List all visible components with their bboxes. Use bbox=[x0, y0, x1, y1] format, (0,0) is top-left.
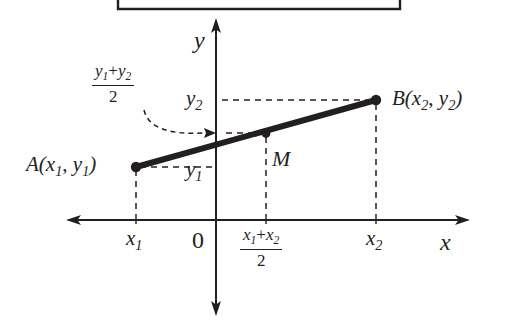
midpoint-x-num-a: x bbox=[243, 225, 251, 244]
midpoint-y-fraction-bar bbox=[92, 85, 134, 86]
callout-arrow bbox=[144, 110, 216, 138]
x1-tick-label-sub: 1 bbox=[135, 237, 142, 253]
midpoint-x-denominator: 2 bbox=[240, 251, 282, 270]
point-m bbox=[262, 129, 271, 138]
segment-ab bbox=[136, 100, 376, 167]
midpoint-x-num-plus: + bbox=[256, 225, 266, 244]
x2-tick-label-sub: 2 bbox=[375, 237, 382, 253]
point-b-label-head: B( bbox=[392, 86, 412, 110]
point-a-label-x: x bbox=[46, 152, 55, 176]
y2-tick-label-base: y bbox=[186, 86, 195, 110]
midpoint-y-numerator: y1+y2 bbox=[92, 62, 134, 84]
x2-tick-label-base: x bbox=[366, 226, 375, 250]
point-b-label: B(x2, y2) bbox=[392, 88, 462, 112]
point-a bbox=[131, 162, 141, 172]
midpoint-y-expression: y1+y2 2 bbox=[92, 62, 134, 106]
y2-tick-label: y2 bbox=[186, 88, 202, 112]
midpoint-x-fraction-bar bbox=[240, 249, 282, 250]
point-a-label-close: ) bbox=[89, 152, 96, 176]
x2-tick-label: x2 bbox=[366, 228, 382, 252]
midpoint-x-numerator: x1+x2 bbox=[240, 226, 282, 248]
y1-tick-label-base: y bbox=[186, 157, 195, 181]
cropped-frame-box bbox=[118, 0, 400, 9]
y1-tick-label-sub: 1 bbox=[195, 168, 202, 184]
midpoint-x-num-b-sub: 2 bbox=[273, 234, 279, 247]
point-a-label-comma: , bbox=[62, 152, 73, 176]
point-b bbox=[371, 95, 381, 105]
x1-tick-label: x1 bbox=[126, 228, 142, 252]
point-b-label-x: x bbox=[412, 86, 421, 110]
midpoint-y-denominator: 2 bbox=[92, 87, 134, 106]
point-a-label-head: A( bbox=[26, 152, 46, 176]
y1-tick-label: y1 bbox=[186, 159, 202, 183]
x-axis bbox=[66, 215, 470, 225]
x-axis-label: x bbox=[440, 230, 451, 254]
point-a-label: A(x1, y1) bbox=[26, 154, 96, 178]
point-m-label: M bbox=[272, 148, 290, 170]
midpoint-y-num-b-sub: 2 bbox=[125, 70, 131, 83]
midpoint-y-num-plus: + bbox=[108, 61, 118, 80]
point-a-label-y: y bbox=[73, 152, 82, 176]
point-b-label-y: y bbox=[439, 86, 448, 110]
midpoint-x-expression: x1+x2 2 bbox=[240, 226, 282, 270]
y-axis bbox=[211, 18, 221, 316]
point-b-label-comma: , bbox=[428, 86, 439, 110]
midpoint-y-num-a: y bbox=[95, 61, 103, 80]
origin-label: 0 bbox=[192, 228, 204, 252]
figure-canvas: y x 0 A(x1, y1) B(x2, y2) M y2 y1 x1 x2 … bbox=[0, 0, 521, 322]
x1-tick-label-base: x bbox=[126, 226, 135, 250]
y-axis-label: y bbox=[194, 28, 205, 52]
y2-tick-label-sub: 2 bbox=[195, 97, 202, 113]
point-b-label-close: ) bbox=[455, 86, 462, 110]
